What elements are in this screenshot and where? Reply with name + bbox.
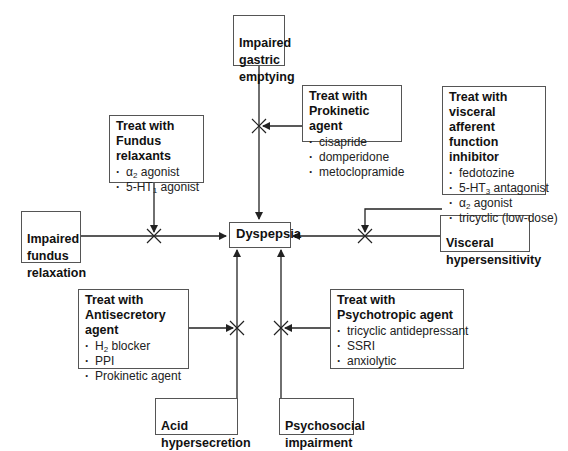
arrow-visceral-afferent-block (365, 209, 442, 232)
treatment-item: tricyclic (low-dose) (449, 211, 539, 226)
cause-label: Visceral hypersensitivity (446, 236, 541, 267)
cause-impaired-gastric-emptying: Impaired gastric emptying (233, 15, 285, 66)
treatment-list: α2 agonist 5-HT1 agonist (116, 165, 197, 195)
treatment-item: fedotozine (449, 166, 539, 181)
treatment-antisecretory: Treat with Antisecretory agent H2 blocke… (78, 289, 189, 369)
treatment-item: PPI (85, 354, 182, 369)
treatment-visceral-afferent-inhibitor: Treat with visceral afferent function in… (442, 86, 546, 195)
treatment-prokinetic: Treat with Prokinetic agent cisapride do… (302, 85, 402, 142)
treatment-psychotropic: Treat with Psychotropic agent tricyclic … (330, 289, 464, 369)
treatment-title: Treat with Psychotropic agent (337, 293, 457, 323)
treatment-item: 5-HT1 agonist (116, 180, 197, 195)
treatment-list: tricyclic antidepressant SSRI anxiolytic (337, 324, 457, 369)
treatment-item: cisapride (309, 135, 395, 150)
treatment-list: cisapride domperidone metoclopramide (309, 135, 395, 180)
treatment-list: fedotozine 5-HT3 antagonist α2 agonist t… (449, 166, 539, 226)
treatment-title: Treat with Fundus relaxants (116, 119, 197, 164)
treatment-title: Treat with Prokinetic agent (309, 89, 395, 134)
center-dyspepsia: Dyspepsia (229, 222, 291, 248)
treatment-title: Treat with Antisecretory agent (85, 293, 182, 338)
treatment-item: domperidone (309, 150, 395, 165)
treatment-item: SSRI (337, 339, 457, 354)
treatment-item: α2 agonist (116, 165, 197, 180)
cause-label: Acid hypersecretion (161, 419, 251, 450)
treatment-item: Prokinetic agent (85, 369, 182, 384)
treatment-item: H2 blocker (85, 339, 182, 354)
cause-label: Impaired fundus relaxation (27, 232, 86, 280)
cause-impaired-fundus-relaxation: Impaired fundus relaxation (21, 211, 81, 263)
cause-psychosocial-impairment: Psychosocial impairment (279, 398, 354, 435)
treatment-list: H2 blocker PPI Prokinetic agent (85, 339, 182, 384)
center-label: Dyspepsia (236, 226, 301, 241)
treatment-item: α2 agonist (449, 196, 539, 211)
treatment-fundus-relaxants: Treat with Fundus relaxants α2 agonist 5… (109, 115, 204, 183)
cause-acid-hypersecretion: Acid hypersecretion (155, 398, 238, 435)
treatment-item: 5-HT3 antagonist (449, 181, 539, 196)
treatment-title: Treat with visceral afferent function in… (449, 90, 539, 165)
treatment-item: tricyclic antidepressant (337, 324, 457, 339)
treatment-item: anxiolytic (337, 354, 457, 369)
treatment-item: metoclopramide (309, 165, 395, 180)
